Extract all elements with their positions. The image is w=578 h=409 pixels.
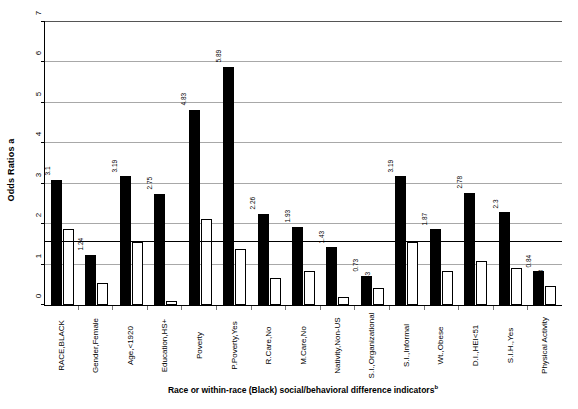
bar-value-label: 0.66 <box>262 263 269 276</box>
bar-group: 0.840.48 <box>528 22 562 305</box>
bar-value-label: 1.55 <box>124 227 131 240</box>
x-axis-tick-mark <box>217 306 252 310</box>
x-axis-tick-mark <box>148 306 183 310</box>
bar-value-label: 0.09 <box>159 286 166 299</box>
y-axis-tick-label: 7 <box>36 9 45 18</box>
x-axis-tick-mark <box>79 306 114 310</box>
bar-adjusted: 0.19 <box>338 297 349 305</box>
bar-group: 2.30.91 <box>493 22 527 305</box>
x-axis-category-label: P.Poverty,Yes <box>229 321 238 369</box>
x-axis-category-label: Physical Activity <box>540 317 549 374</box>
bar-group: 4.832.12 <box>183 22 217 305</box>
bar-adjusted: 0.48 <box>545 286 556 305</box>
bar-group: 1.240.54 <box>79 22 113 305</box>
x-axis-tick-mark <box>286 306 321 310</box>
x-axis-category-label: Wt.,Obese <box>437 327 446 365</box>
bar-value-label: 2.12 <box>193 204 200 217</box>
bar-adjusted: 0.43 <box>373 288 384 305</box>
bar-value-label: 2.75 <box>147 177 154 190</box>
x-axis-category-7: M.Care,No <box>286 311 321 377</box>
bar-group: 5.891.39 <box>217 22 251 305</box>
bar-value-label: 0.83 <box>435 256 442 269</box>
bar-value-label: 2.3 <box>493 199 500 208</box>
x-axis-tick-mark <box>252 306 287 310</box>
x-axis-tick-mark <box>390 306 425 310</box>
y-axis-tick-label: 6 <box>36 49 45 58</box>
bar-value-label: 1.88 <box>55 213 62 226</box>
bar-value-label: 1.55 <box>400 227 407 240</box>
bar-adjusted: 1.39 <box>235 249 246 305</box>
y-axis-title: Odds Ratios a <box>0 120 22 220</box>
bar-value-label: 2.26 <box>250 197 257 210</box>
x-axis-category-9: S.I.,Organizational <box>355 311 390 377</box>
bar-unadjusted: 2.26 <box>258 214 269 305</box>
x-axis-category-12: D.I.,HEI<51 <box>458 311 493 377</box>
bar-group: 2.260.66 <box>252 22 286 305</box>
x-axis-category-8: Nativity,Non-US <box>320 311 355 377</box>
y-axis-title-text: Odds Ratios a <box>6 138 16 201</box>
bar-adjusted: 0.66 <box>270 278 281 305</box>
x-axis-category-label: R.Care,No <box>264 327 273 365</box>
x-axis-category-label: RACE,BLACK <box>57 320 66 371</box>
bar-value-label: 1.08 <box>469 246 476 259</box>
x-axis-category-1: Gender,Female <box>79 311 114 377</box>
bar-value-label: 0.84 <box>526 254 533 267</box>
x-axis-category-label: Poverty <box>195 332 204 359</box>
bar-value-label: 4.83 <box>181 93 188 106</box>
x-axis-tick-mark <box>113 306 148 310</box>
bar-group: 1.430.19 <box>321 22 355 305</box>
bar-group: 3.191.55 <box>114 22 148 305</box>
x-axis-category-5: P.Poverty,Yes <box>217 311 252 377</box>
bar-adjusted: 0.09 <box>166 301 177 305</box>
bar-group: 0.730.43 <box>355 22 389 305</box>
bar-group: 2.750.09 <box>148 22 182 305</box>
bar-value-label: 5.89 <box>216 50 223 63</box>
x-axis-title: Race or within-race (Black) social/behav… <box>44 384 562 395</box>
x-axis-title-text: Race or within-race (Black) social/behav… <box>168 385 434 395</box>
bar-adjusted: 2.12 <box>201 219 212 305</box>
bar-value-label: 3.1 <box>45 167 52 176</box>
x-axis-category-0: RACE,BLACK <box>44 311 79 377</box>
bar-value-label: 0.19 <box>331 282 338 295</box>
bar-value-label: 1.87 <box>423 213 430 226</box>
x-axis-category-14: Physical Activity <box>527 311 562 377</box>
bar-adjusted: 0.83 <box>304 271 315 305</box>
x-axis-tick-mark <box>425 306 460 310</box>
y-axis-tick-label: 1 <box>36 251 45 260</box>
bar-adjusted: 1.08 <box>476 261 487 305</box>
x-axis-category-label: S.I.H.,Yes <box>506 328 515 363</box>
bar-value-label: 1.24 <box>78 238 85 251</box>
x-axis-category-label: Gender,Female <box>91 318 100 373</box>
x-axis-category-label: Nativity,Non-US <box>333 317 342 373</box>
x-axis-category-labels: RACE,BLACKGender,FemaleAge,<1920Educatio… <box>44 311 562 377</box>
x-axis-category-label: D.I.,HEI<51 <box>471 325 480 367</box>
bar-adjusted: 1.55 <box>132 242 143 305</box>
x-axis-category-label: Age,<1920 <box>126 326 135 365</box>
bar-adjusted: 0.54 <box>97 283 108 305</box>
y-axis-tick-label: 2 <box>36 211 45 220</box>
bar-value-label: 0.48 <box>538 270 545 283</box>
bar-groups: 3.11.881.240.543.191.552.750.094.832.125… <box>45 22 562 305</box>
reference-line <box>45 241 562 242</box>
x-axis-category-4: Poverty <box>182 311 217 377</box>
x-axis-category-10: S.I.,Informal <box>389 311 424 377</box>
x-axis-tick-mark <box>182 306 217 310</box>
bar-value-label: 1.93 <box>285 210 292 223</box>
y-axis-tick-label: 4 <box>36 130 45 139</box>
x-axis-category-3: Education,HS+ <box>148 311 183 377</box>
x-axis-category-6: R.Care,No <box>251 311 286 377</box>
x-axis-category-label: S.I.,Organizational <box>368 313 377 379</box>
bar-unadjusted: 5.89 <box>223 67 234 305</box>
bar-group: 2.781.08 <box>459 22 493 305</box>
bar-value-label: 0.83 <box>297 256 304 269</box>
bar-unadjusted: 1.43 <box>326 247 337 305</box>
x-axis-tick-mark <box>459 306 494 310</box>
bar-adjusted: 0.91 <box>511 268 522 305</box>
bar-value-label: 0.43 <box>366 272 373 285</box>
x-axis-category-2: Age,<1920 <box>113 311 148 377</box>
x-axis-title-superscript: b <box>434 384 438 390</box>
bar-value-label: 1.39 <box>228 233 235 246</box>
bar-adjusted: 1.55 <box>407 242 418 305</box>
x-axis-tick-mark <box>321 306 356 310</box>
bar-group: 1.930.83 <box>286 22 320 305</box>
